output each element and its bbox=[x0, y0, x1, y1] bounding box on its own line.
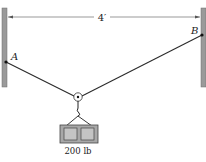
arrow-right-icon bbox=[195, 16, 200, 19]
point-b-label: B bbox=[190, 25, 198, 36]
point-a-label: A bbox=[10, 51, 18, 62]
dimension-label: 4′ bbox=[98, 12, 107, 23]
load-label: 200 lb bbox=[64, 146, 92, 156]
anchor-point-b bbox=[200, 33, 203, 36]
left-wall bbox=[2, 8, 7, 87]
arrow-left-icon bbox=[8, 16, 13, 19]
pulley-icon bbox=[74, 93, 82, 101]
crate-icon bbox=[60, 125, 98, 143]
hook-icon bbox=[77, 101, 80, 116]
cable-b bbox=[80, 35, 202, 97]
right-wall bbox=[201, 8, 206, 87]
pulley-diagram: 4′ A B 200 lb bbox=[0, 0, 206, 162]
anchor-point-a bbox=[4, 60, 7, 63]
cable-a bbox=[6, 62, 76, 97]
